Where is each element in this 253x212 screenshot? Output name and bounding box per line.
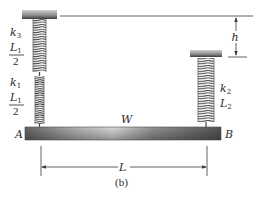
label-k1: k1 <box>10 76 21 90</box>
label-A: A <box>14 128 23 141</box>
figure-caption: (b) <box>115 176 128 189</box>
right-support-block <box>190 50 222 57</box>
label-k3: k3 <box>10 26 21 40</box>
arrow-right-icon <box>202 165 207 168</box>
spring-k3 <box>33 19 46 72</box>
label-L: L <box>118 161 126 174</box>
spring-beam-diagram: k3 L1 2 k1 L1 2 h k2 L2 W A B <box>0 0 253 212</box>
label-k3-length-num: L1 <box>9 41 22 55</box>
label-h: h <box>232 31 239 44</box>
label-B: B <box>224 128 233 141</box>
label-k2-length: L2 <box>219 97 232 111</box>
label-k3-length-den: 2 <box>13 55 19 67</box>
arrow-left-icon <box>41 165 46 168</box>
span-dimension: L <box>41 146 207 176</box>
label-k1-length-num: L1 <box>9 91 22 105</box>
label-k1-length-den: 2 <box>13 105 19 117</box>
arrow-up-icon <box>234 17 237 22</box>
height-dimension: h <box>228 17 247 57</box>
label-k2: k2 <box>220 82 231 96</box>
spring-k2 <box>198 58 214 122</box>
beam <box>25 127 221 140</box>
label-W: W <box>121 113 134 126</box>
spring-k1 <box>35 76 44 124</box>
arrow-down-icon <box>234 51 237 56</box>
left-support-block <box>22 10 57 19</box>
